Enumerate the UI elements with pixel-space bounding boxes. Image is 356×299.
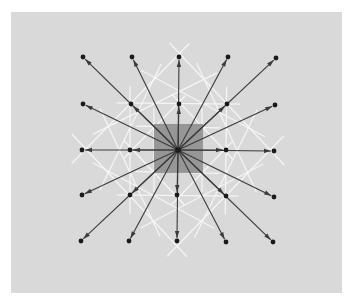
center-site-point — [175, 147, 181, 153]
site-point — [129, 102, 134, 107]
site-point — [128, 148, 133, 153]
site-point — [273, 103, 278, 108]
site-point — [226, 55, 231, 60]
diagram-canvas — [0, 0, 356, 299]
site-point — [274, 56, 279, 61]
site-point — [127, 239, 132, 244]
site-point — [225, 102, 230, 107]
site-point — [177, 102, 182, 107]
site-point — [272, 195, 277, 200]
site-point — [272, 149, 277, 154]
site-point — [224, 148, 229, 153]
site-point — [81, 102, 86, 107]
site-point — [224, 240, 229, 245]
site-point — [175, 239, 180, 244]
site-point — [81, 55, 86, 60]
site-point — [130, 55, 135, 60]
voronoi-construction-diagram — [0, 0, 356, 299]
site-point — [271, 240, 276, 245]
site-point — [128, 193, 133, 198]
site-point — [80, 193, 85, 198]
site-point — [177, 55, 182, 60]
site-point — [80, 148, 85, 153]
site-point — [224, 194, 229, 199]
site-point — [79, 239, 84, 244]
site-point — [175, 193, 180, 198]
